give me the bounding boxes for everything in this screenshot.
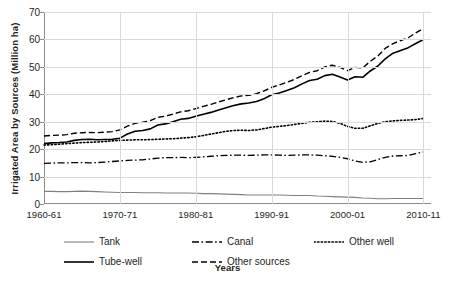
- y-axis-tick-label: 20: [14, 144, 40, 155]
- y-axis-tick-label: 60: [14, 34, 40, 45]
- y-axis-tick-label: 50: [14, 61, 40, 72]
- y-axis-tick-mark: [40, 149, 44, 150]
- gridline-vertical: [120, 12, 121, 204]
- series-lines: [44, 12, 431, 204]
- legend-line-swatch: [314, 237, 344, 247]
- series-line-other-sources: [44, 28, 423, 136]
- gridline-vertical: [196, 12, 197, 204]
- y-axis-tick-mark: [40, 122, 44, 123]
- y-axis-tick-label: 70: [14, 7, 40, 18]
- gridline-horizontal: [44, 39, 431, 40]
- gridline-vertical: [272, 12, 273, 204]
- gridline-horizontal: [44, 149, 431, 150]
- series-line-tank: [44, 191, 423, 199]
- legend-item-label: Tank: [99, 236, 120, 247]
- gridline-horizontal: [44, 122, 431, 123]
- legend-item-label: Other well: [349, 236, 394, 247]
- y-axis-tick-mark: [40, 177, 44, 178]
- legend-item-tank[interactable]: Tank: [64, 236, 120, 247]
- legend-line-swatch: [192, 237, 222, 247]
- x-axis-tick-label: 1990-91: [237, 209, 307, 220]
- legend-item-tube-well[interactable]: Tube-well: [64, 256, 142, 267]
- legend-item-label: Canal: [227, 236, 253, 247]
- legend-item-label: Tube-well: [99, 256, 142, 267]
- y-axis-tick-mark: [40, 12, 44, 13]
- legend-line-swatch: [64, 257, 94, 267]
- y-axis-tick-label: 0: [14, 199, 40, 210]
- gridline-vertical: [423, 12, 424, 204]
- legend-item-other-sources[interactable]: Other sources: [192, 256, 290, 267]
- legend-line-swatch: [64, 237, 94, 247]
- gridline-horizontal: [44, 177, 431, 178]
- line-chart: Irrigated Area by Sources (Million ha) 0…: [0, 0, 455, 285]
- series-line-tube-well: [44, 39, 423, 143]
- x-axis-tick-label: 1960-61: [9, 209, 79, 220]
- y-axis-tick-mark: [40, 94, 44, 95]
- y-axis-tick-mark: [40, 204, 44, 205]
- gridline-horizontal: [44, 94, 431, 95]
- y-axis-tick-labels: 010203040506070: [10, 0, 40, 285]
- x-axis-tick-label: 1970-71: [85, 209, 155, 220]
- legend-item-canal[interactable]: Canal: [192, 236, 253, 247]
- series-line-canal: [44, 152, 423, 164]
- y-axis-tick-mark: [40, 67, 44, 68]
- legend-line-swatch: [192, 257, 222, 267]
- y-axis-tick-label: 40: [14, 89, 40, 100]
- y-axis-tick-mark: [40, 39, 44, 40]
- x-axis-tick-label: 2000-01: [313, 209, 383, 220]
- x-axis-tick-label: 1980-81: [161, 209, 231, 220]
- legend-item-other-well[interactable]: Other well: [314, 236, 394, 247]
- gridline-vertical: [348, 12, 349, 204]
- plot-area: [44, 12, 431, 204]
- y-axis-tick-label: 10: [14, 171, 40, 182]
- legend-item-label: Other sources: [227, 256, 290, 267]
- chart-legend: TankTube-wellCanalOther sourcesOther wel…: [44, 232, 431, 280]
- gridline-horizontal: [44, 12, 431, 13]
- x-axis-tick-label: 2010-11: [388, 209, 455, 220]
- y-axis-tick-label: 30: [14, 116, 40, 127]
- gridline-horizontal: [44, 67, 431, 68]
